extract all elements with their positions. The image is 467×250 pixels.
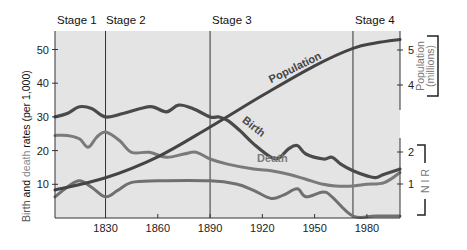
nir-tick-label: 1 <box>408 178 414 190</box>
left-axis-title-part: Birth <box>20 200 32 222</box>
x-tick-label: 1920 <box>250 222 274 234</box>
left-axis-title-part: death <box>20 151 32 177</box>
stage-label: Stage 1 <box>57 14 97 26</box>
population-axis-subtitle: (millions) <box>424 45 436 87</box>
right-axis-titles: Population(millions)N I R <box>414 36 438 215</box>
x-tick-label: 1980 <box>355 222 379 234</box>
nir-tick-label: 2 <box>408 146 414 158</box>
left-axis-title-text: Birth and death rates (per 1,000) <box>20 70 32 222</box>
y-tick-label: 50 <box>37 44 49 56</box>
stage-label: Stage 3 <box>212 14 252 26</box>
stage-label: Stage 2 <box>106 14 146 26</box>
y-tick-label: 40 <box>37 77 49 89</box>
left-axis-title-part: rates (per 1,000) <box>20 70 32 151</box>
plot-background <box>55 31 400 218</box>
death-label: Death <box>257 152 288 164</box>
x-tick-label: 1890 <box>198 222 222 234</box>
demographic-transition-chart: Stage 1Stage 2Stage 3Stage 4 PopulationB… <box>0 0 467 250</box>
left-axis-title-part: and <box>20 177 32 200</box>
x-tick-label: 1950 <box>302 222 326 234</box>
y-tick-label: 30 <box>37 111 49 123</box>
x-tick-label: 1830 <box>93 222 117 234</box>
nir-axis-title: N I R <box>419 169 431 193</box>
left-axis-title: Birth and death rates (per 1,000) <box>20 70 32 222</box>
y-tick-label: 20 <box>37 145 49 157</box>
x-tick-label: 1860 <box>146 222 170 234</box>
y-tick-label: 10 <box>37 178 49 190</box>
stage-labels: Stage 1Stage 2Stage 3Stage 4 <box>57 14 395 26</box>
stage-label: Stage 4 <box>355 14 395 26</box>
